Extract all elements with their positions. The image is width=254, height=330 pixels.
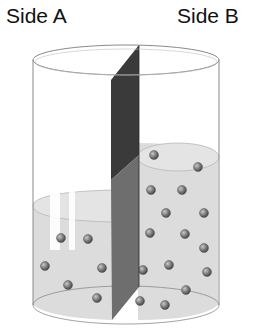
solute-particle [64,281,73,290]
solute-particle [150,151,159,160]
membrane-front [111,155,139,320]
solute-particle [84,235,93,244]
solute-particle [200,209,209,218]
solute-particle [178,186,187,195]
solute-particle [161,301,170,310]
solute-particle [57,234,66,243]
solute-particle [146,229,155,238]
solute-particle [139,266,148,275]
solute-particle [162,209,171,218]
solute-particle [165,261,174,270]
solute-particle [98,264,107,273]
solute-particle [194,163,203,172]
glass-highlight-2 [69,187,75,250]
solute-particle [147,186,156,195]
solute-particle [181,230,190,239]
solute-particle [182,286,191,295]
beaker-diagram [0,0,254,330]
solute-particle [203,268,212,277]
solute-particle [136,297,145,306]
liquid-surface-b [137,143,219,171]
solute-particle [41,262,50,271]
solute-particle [200,244,209,253]
solute-particle [93,294,102,303]
